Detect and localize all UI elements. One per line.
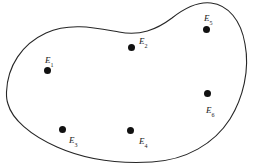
point-label-base-e6: E	[206, 105, 212, 115]
point-dot-e3	[59, 126, 66, 133]
point-label-subscript-e4: 4	[145, 143, 148, 149]
point-label-e3: E3	[69, 136, 78, 145]
point-label-subscript-e6: 6	[212, 112, 215, 118]
point-label-e2: E2	[139, 37, 148, 46]
point-dot-e5	[203, 26, 210, 33]
point-label-subscript-e3: 3	[75, 142, 78, 148]
point-dot-e1	[44, 67, 51, 74]
point-label-e4: E4	[139, 137, 148, 146]
sample-space-outline-svg	[0, 0, 255, 168]
point-dot-e4	[127, 127, 134, 134]
point-label-base-e2: E	[139, 36, 145, 46]
point-dot-e6	[204, 90, 211, 97]
sample-space-figure: E1E2E3E4E5E6	[0, 0, 255, 168]
sample-space-boundary-path	[6, 3, 246, 163]
point-label-base-e4: E	[139, 136, 145, 146]
point-label-e1: E1	[45, 56, 54, 65]
point-label-subscript-e1: 1	[51, 62, 54, 68]
point-label-e5: E5	[204, 14, 213, 23]
point-label-base-e5: E	[204, 13, 210, 23]
point-label-subscript-e5: 5	[210, 20, 213, 26]
point-label-base-e1: E	[45, 55, 51, 65]
point-label-e6: E6	[206, 106, 215, 115]
point-label-subscript-e2: 2	[145, 43, 148, 49]
point-label-base-e3: E	[69, 135, 75, 145]
point-dot-e2	[128, 44, 135, 51]
